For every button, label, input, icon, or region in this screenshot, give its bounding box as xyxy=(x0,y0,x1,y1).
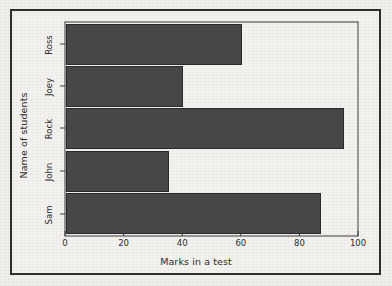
y-tick-label-sam: Sam xyxy=(44,193,54,237)
y-tick-label-joey: Joey xyxy=(44,65,54,109)
x-tick-label-100: 100 xyxy=(343,238,373,248)
x-axis-title: Marks in a test xyxy=(0,256,392,267)
y-tick-label-rock: Rock xyxy=(44,107,54,151)
x-tick-label-20: 20 xyxy=(109,238,139,248)
x-tick-label-80: 80 xyxy=(284,238,314,248)
y-tick-label-ross: Ross xyxy=(44,23,54,67)
bar-joey xyxy=(66,66,183,107)
bar-sam xyxy=(66,193,321,234)
y-tick-marks xyxy=(60,44,65,214)
x-tick-label-0: 0 xyxy=(50,238,80,248)
bar-rock xyxy=(66,108,344,149)
bar-chart: 0 20 40 60 80 100 Sam John Rock Joey Ros… xyxy=(0,0,392,286)
bar-ross xyxy=(66,24,242,65)
x-tick-label-40: 40 xyxy=(167,238,197,248)
y-tick-label-john: John xyxy=(44,150,54,194)
y-axis-title: Name of students xyxy=(18,66,29,206)
bar-john xyxy=(66,151,169,192)
x-tick-label-60: 60 xyxy=(226,238,256,248)
